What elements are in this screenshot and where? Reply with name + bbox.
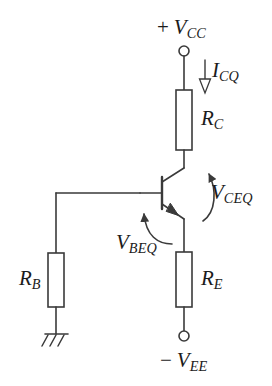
- ground-hatch-2: [50, 335, 56, 346]
- ground-hatch-1: [42, 335, 48, 346]
- vceq-symbol: V: [211, 180, 224, 204]
- vcc-terminal-circle: [179, 46, 189, 56]
- re-symbol: R: [201, 266, 214, 290]
- re-subscript: E: [214, 276, 223, 292]
- rb-subscript: B: [32, 276, 41, 292]
- vee-subscript: EE: [190, 358, 208, 374]
- circuit-diagram-canvas: +VCC ICQ RC VCEQ VBEQ RB RE −VEE: [0, 0, 272, 386]
- label-vee: −VEE: [160, 350, 207, 371]
- rc-symbol: R: [201, 106, 214, 130]
- icq-symbol: I: [212, 58, 219, 82]
- label-rb: RB: [19, 268, 41, 289]
- label-vceq: VCEQ: [211, 182, 253, 203]
- label-vcc: +VCC: [157, 17, 206, 38]
- vcc-sign: +: [157, 15, 169, 39]
- rc-subscript: C: [214, 116, 224, 132]
- label-vbeq: VBEQ: [116, 232, 157, 253]
- icq-subscript: CQ: [219, 68, 239, 84]
- vcc-subscript: CC: [187, 25, 206, 41]
- vbeq-symbol: V: [116, 230, 129, 254]
- transistor-emitter-arrowhead: [167, 204, 179, 216]
- vceq-subscript: CEQ: [224, 190, 253, 206]
- label-icq: ICQ: [212, 60, 239, 81]
- rb-symbol: R: [19, 266, 32, 290]
- resistor-rb-body: [48, 253, 64, 307]
- vee-symbol: V: [177, 348, 190, 372]
- vee-sign: −: [160, 348, 172, 372]
- vcc-symbol: V: [174, 15, 187, 39]
- resistor-rc-body: [176, 90, 192, 150]
- label-rc: RC: [201, 108, 223, 129]
- icq-arrow-head: [200, 79, 211, 93]
- label-re: RE: [201, 268, 223, 289]
- transistor-collector-lead: [162, 168, 184, 182]
- vbeq-subscript: BEQ: [129, 240, 157, 256]
- resistor-re-body: [176, 252, 192, 307]
- vee-terminal-circle: [179, 331, 189, 341]
- ground-hatch-3: [58, 335, 64, 346]
